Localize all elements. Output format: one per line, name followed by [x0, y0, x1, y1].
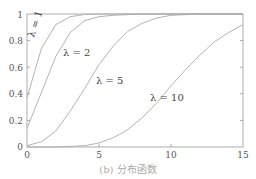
y-tick-0.2: 0.2: [9, 116, 23, 126]
series-lambda-10: [27, 25, 243, 147]
label-lambda-5: λ = 5: [96, 75, 123, 86]
y-tick-0.6: 0.6: [9, 63, 24, 73]
y-tick-0.8: 0.8: [9, 36, 24, 46]
x-tick-10: 10: [165, 150, 177, 160]
axis-ticks: [27, 41, 243, 147]
label-lambda-2: λ = 2: [63, 47, 90, 58]
plot-frame: [27, 14, 243, 147]
series-lambda-5: [27, 14, 243, 146]
label-lambda-1: λ = 1: [25, 9, 44, 38]
label-lambda-10: λ = 10: [150, 92, 184, 103]
x-tick-15: 15: [237, 150, 249, 160]
series-lambda-2: [27, 14, 243, 128]
x-tick-0: 0: [24, 150, 30, 160]
x-tick-5: 5: [96, 150, 102, 160]
series-lambda-1: [27, 14, 243, 98]
y-tick-0: 0: [17, 142, 23, 152]
figure-caption: (b) 分布函数: [0, 161, 256, 176]
cdf-chart: 0 5 10 15 0 0.2 0.4 0.6 0.8 1 λ = 1 λ = …: [0, 0, 256, 179]
y-tick-0.4: 0.4: [9, 89, 24, 99]
y-tick-1: 1: [17, 10, 23, 20]
